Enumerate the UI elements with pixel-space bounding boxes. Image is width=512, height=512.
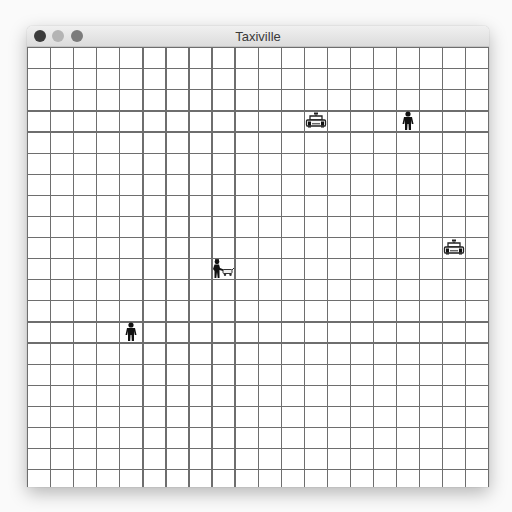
grid-line-horizontal	[27, 469, 489, 470]
grid-line-horizontal	[27, 89, 489, 90]
grid-line-vertical	[96, 47, 97, 487]
desktop: Taxiville	[0, 0, 512, 512]
grid-line-vertical	[488, 47, 489, 487]
grid-line-horizontal	[27, 131, 489, 132]
grid-line-horizontal	[27, 258, 489, 259]
grid-line-horizontal	[27, 279, 489, 280]
window-title: Taxiville	[27, 29, 489, 44]
taxi-icon	[443, 239, 465, 257]
grid-line-horizontal	[27, 153, 489, 154]
grid-line-horizontal	[27, 174, 489, 175]
grid-line-vertical	[142, 47, 143, 487]
grid-line-horizontal	[27, 68, 489, 69]
passenger-sprite[interactable]	[120, 322, 143, 343]
grid-line-horizontal	[27, 448, 489, 449]
grid-line-vertical	[27, 47, 28, 487]
grid-line-horizontal	[27, 110, 489, 111]
passenger-sprite[interactable]	[396, 111, 419, 132]
person-icon	[124, 322, 138, 342]
grid-line-vertical	[73, 47, 74, 487]
grid-lines	[27, 47, 489, 487]
grid-line-horizontal	[27, 47, 489, 48]
grid-line-vertical	[465, 47, 466, 487]
taxi-icon	[305, 112, 327, 130]
taxiville-window: Taxiville	[27, 26, 489, 487]
person-with-luggage-icon	[211, 259, 235, 279]
grid-line-vertical	[188, 47, 189, 487]
taxi-sprite[interactable]	[442, 237, 465, 258]
grid-line-horizontal	[27, 342, 489, 343]
grid-line-horizontal	[27, 195, 489, 196]
grid-line-vertical	[258, 47, 259, 487]
grid-line-vertical	[373, 47, 374, 487]
grid-line-horizontal	[27, 406, 489, 407]
grid-line-vertical	[442, 47, 443, 487]
grid-line-horizontal	[27, 364, 489, 365]
grid-line-horizontal	[27, 216, 489, 217]
grid-line-vertical	[119, 47, 120, 487]
grid-line-vertical	[50, 47, 51, 487]
passenger-with-luggage-sprite[interactable]	[212, 259, 235, 280]
taxi-sprite[interactable]	[304, 111, 327, 132]
grid-line-horizontal	[27, 321, 489, 322]
game-board[interactable]	[27, 47, 489, 487]
grid-line-horizontal	[27, 237, 489, 238]
title-bar[interactable]: Taxiville	[27, 26, 489, 47]
grid-line-vertical	[350, 47, 351, 487]
grid-line-vertical	[165, 47, 166, 487]
person-icon	[401, 111, 415, 131]
grid-line-horizontal	[27, 427, 489, 428]
grid-line-vertical	[281, 47, 282, 487]
grid-line-horizontal	[27, 385, 489, 386]
grid-line-horizontal	[27, 300, 489, 301]
